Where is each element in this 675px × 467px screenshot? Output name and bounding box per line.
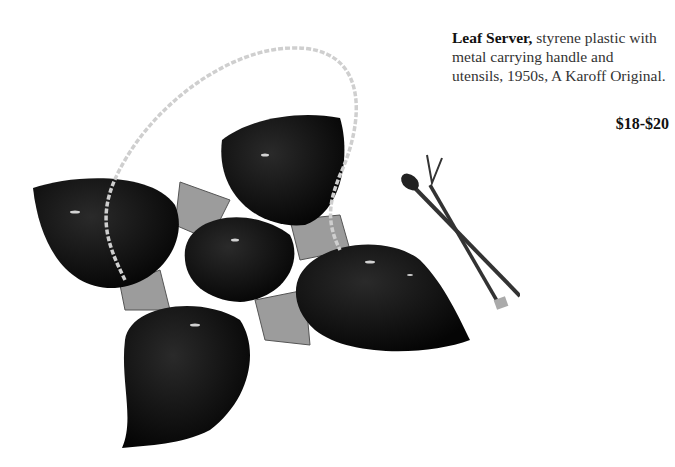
bowl-bottom — [122, 306, 250, 448]
product-photo — [0, 0, 520, 467]
product-price: $18-$20 — [616, 115, 669, 133]
bowl-top — [221, 115, 344, 226]
product-caption: Leaf Server, styrene plastic with metal … — [452, 28, 667, 85]
bowl-right — [296, 244, 470, 351]
bowls — [33, 115, 470, 448]
product-title: Leaf Server, — [452, 29, 532, 46]
bowl-center — [185, 217, 295, 302]
